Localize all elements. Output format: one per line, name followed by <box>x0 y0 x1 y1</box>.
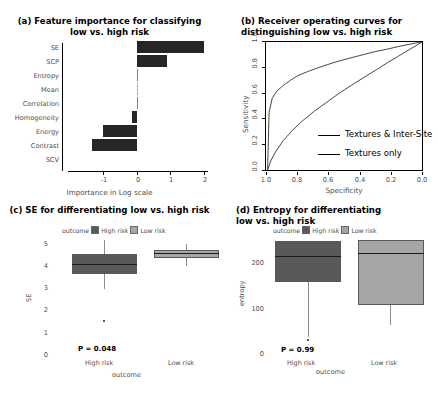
panel-c-ytick-1: 1 <box>36 329 48 337</box>
panel-d-ytick-200: 200 <box>246 259 264 267</box>
panel-a-bar-SE <box>137 41 204 53</box>
panel-d-pvalue: P = 0.99 <box>281 346 314 354</box>
panel-b-legend-swatch-2 <box>318 154 340 155</box>
panel-a-x-axis <box>68 171 208 172</box>
panel-d-group-label-low-risk: Low risk <box>371 359 397 367</box>
panel-b-xtick-0.4: 0.4 <box>352 176 368 184</box>
panel-b-legend-label-2: Textures only <box>345 148 402 158</box>
panel-a-y-axis <box>62 43 63 171</box>
panel-b-ytickmark-0.6 <box>262 93 265 94</box>
panel-b: (b) Receiver operating curves for distin… <box>219 0 438 198</box>
panel-d-ytick-0: 0 <box>246 350 264 358</box>
panel-b-ytick-0.6: 0.6 <box>251 84 259 95</box>
panel-b-ytickmark-0.4 <box>262 118 265 119</box>
panel-a-xtickmark-0 <box>137 172 138 175</box>
panel-d-plot-area: 200 100 0 entropy P = 0.99 High risk Low… <box>219 198 438 395</box>
panel-d-ytick-100: 100 <box>246 305 264 313</box>
panel-a-bar-SCP <box>137 55 167 67</box>
panel-b-ytick-1.0: 1.0 <box>251 32 259 43</box>
panel-a-xtickmark-2 <box>204 172 205 175</box>
panel-d-high-risk-whisker <box>308 274 309 337</box>
panel-b-ytickmark-0.2 <box>262 144 265 145</box>
panel-c-group-label-low-risk: Low risk <box>168 359 194 367</box>
panel-a-bar-Contrast <box>92 139 137 151</box>
panel-a-title: (a) Feature importance for classifying l… <box>0 16 219 37</box>
panel-b-ytick-0.2: 0.2 <box>251 135 259 146</box>
panel-a-cat-Energy: Energy <box>6 128 59 136</box>
panel-b-ytick-0.4: 0.4 <box>251 109 259 120</box>
panel-a-cat-Mean: Mean <box>6 86 59 94</box>
panel-b-title-line2: distinguishing low vs. high risk <box>241 27 438 38</box>
panel-d-xlabel: outcome <box>316 368 345 376</box>
panel-d-high-risk-outlier <box>307 339 309 341</box>
panel-a-bar-Correlation <box>137 97 138 109</box>
panel-d-low-risk-whisker <box>390 304 391 325</box>
panel-d-low-risk-median <box>358 253 424 254</box>
panel-a-bar-Entropy <box>137 69 138 81</box>
panel-a-xtick-0: 0 <box>131 176 145 184</box>
panel-c-ytick-2: 2 <box>36 306 48 314</box>
panel-c-high-risk-outlier <box>103 320 105 322</box>
panel-b-ylabel: Sensitivity <box>241 96 250 133</box>
panel-d-group-label-high-risk: High risk <box>287 359 315 367</box>
panel-b-ytickmark-0.8 <box>262 67 265 68</box>
panel-b-xtickmark-0.6 <box>328 172 329 175</box>
panel-b-ytickmark-0.0 <box>262 170 265 171</box>
panel-b-title-line1: (b) Receiver operating curves for <box>241 16 438 27</box>
panel-c-group-label-high-risk: High risk <box>85 359 113 367</box>
panel-a-cat-Contrast: Contrast <box>6 142 59 150</box>
panel-a-cat-Homogeneity: Homogeneity <box>1 114 59 122</box>
panel-b-xtickmark-0.4 <box>360 172 361 175</box>
panel-a-xtickmark--1 <box>103 172 104 175</box>
panel-c-xlabel: outcome <box>112 371 141 379</box>
panel-c-ytick-3: 3 <box>36 284 48 292</box>
figure-root: (a) Feature importance for classifying l… <box>0 0 438 395</box>
panel-a-bar-Mean <box>137 83 138 95</box>
panel-b-ytickmark-1.0 <box>262 41 265 42</box>
panel-d-low-risk-box <box>358 240 424 305</box>
panel-a-plot-area: SE SCP Entropy Mean Correlation Homogene… <box>0 40 219 180</box>
panel-c-plot-area: 5 4 3 2 1 0 SE P = 0.048 High risk Low r… <box>0 198 219 395</box>
panel-a-title-line2: low vs. high risk <box>0 27 219 38</box>
panel-c: (c) SE for differentiating low vs. high … <box>0 198 219 395</box>
panel-b-ytick-0.0: 0.0 <box>251 161 259 172</box>
panel-b-legend-swatch-1 <box>318 135 340 136</box>
panel-b-xtickmark-1.0 <box>266 172 267 175</box>
panel-b-xtick-1.0: 1.0 <box>258 176 274 184</box>
panel-a-xlabel: Importance in Log scale <box>0 188 219 197</box>
panel-d-high-risk-median <box>275 256 341 257</box>
panel-a-cat-SCP: SCP <box>6 58 59 66</box>
panel-a-xtick-1: 1 <box>164 176 178 184</box>
panel-a-xtick-2: 2 <box>198 176 212 184</box>
panel-b-title: (b) Receiver operating curves for distin… <box>241 16 438 37</box>
panel-b-xlabel: Specificity <box>265 186 423 195</box>
panel-a: (a) Feature importance for classifying l… <box>0 0 219 198</box>
panel-a-bar-Energy <box>103 125 137 137</box>
panel-c-ytick-4: 4 <box>36 262 48 270</box>
panel-c-ytick-5: 5 <box>36 240 48 248</box>
panel-b-legend-label-1: Textures & Inter-Site <box>345 129 432 139</box>
panel-c-ytick-0: 0 <box>36 351 48 359</box>
panel-c-high-risk-median <box>72 264 137 265</box>
panel-a-title-line1: (a) Feature importance for classifying <box>0 16 219 27</box>
panel-b-xtick-0.0: 0.0 <box>414 176 430 184</box>
panel-d: (d) Entropy for differentiating low vs. … <box>219 198 438 395</box>
panel-c-pvalue: P = 0.048 <box>78 345 116 353</box>
panel-a-cat-SE: SE <box>6 44 59 52</box>
panel-c-ylabel: SE <box>25 294 33 302</box>
panel-b-xtickmark-0.8 <box>297 172 298 175</box>
panel-a-xtick--1: -1 <box>97 176 111 184</box>
panel-a-cat-Entropy: Entropy <box>6 72 59 80</box>
panel-b-ytick-0.8: 0.8 <box>251 58 259 69</box>
panel-c-low-risk-median <box>154 253 219 254</box>
panel-b-xtickmark-0.2 <box>391 172 392 175</box>
panel-b-xtick-0.6: 0.6 <box>320 176 336 184</box>
panel-a-bar-Homogeneity <box>132 111 137 123</box>
panel-b-xtick-0.2: 0.2 <box>383 176 399 184</box>
panel-a-cat-Correlation: Correlation <box>1 100 59 108</box>
panel-a-xtickmark-1 <box>170 172 171 175</box>
panel-d-high-risk-box <box>275 241 341 282</box>
panel-b-xtick-0.8: 0.8 <box>289 176 305 184</box>
panel-a-cat-SCV: SCV <box>6 156 59 164</box>
panel-b-xtickmark-0.0 <box>422 172 423 175</box>
